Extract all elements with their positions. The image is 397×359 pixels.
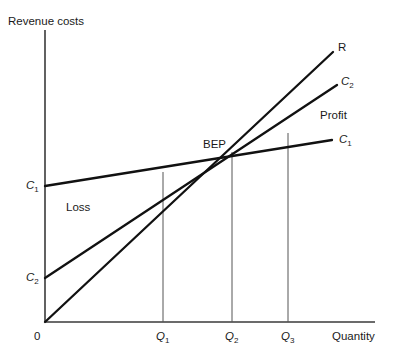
series-label-revenue: R <box>338 42 346 54</box>
x-tick-q1-sub: 1 <box>165 336 169 345</box>
x-tick-q3-sub: 3 <box>290 336 294 345</box>
series-line-c1 <box>45 140 332 186</box>
series-label-c1-right: C1 <box>339 134 352 148</box>
x-tick-q1: Q1 <box>156 331 169 345</box>
break-even-point-label: BEP <box>203 139 226 151</box>
series-label-c2-intercept: C2 <box>26 272 39 286</box>
x-tick-q2-sub: 2 <box>234 336 238 345</box>
profit-region-label: Profit <box>320 110 347 122</box>
x-tick-q1-base: Q <box>156 330 165 342</box>
loss-region-label: Loss <box>66 202 90 214</box>
series-label-c1-right-sub: 1 <box>347 139 351 148</box>
y-axis-label: Revenue costs <box>8 16 84 28</box>
series-label-c2-right-sub: 2 <box>349 81 353 90</box>
series-label-c2-right: C2 <box>341 76 354 90</box>
series-label-c2-intercept-sub: 2 <box>34 277 38 286</box>
series-label-c1-intercept: C1 <box>26 180 39 194</box>
x-tick-q2: Q2 <box>225 331 238 345</box>
x-tick-q3: Q3 <box>281 331 294 345</box>
series-line-revenue <box>45 52 333 322</box>
series-line-c2 <box>45 85 337 278</box>
x-tick-q2-base: Q <box>225 330 234 342</box>
break-even-chart: Revenue costs Quantity 0 Q1 Q2 Q3 R C2 C… <box>0 0 397 359</box>
x-tick-q3-base: Q <box>281 330 290 342</box>
chart-canvas <box>0 0 397 359</box>
series-label-c1-intercept-sub: 1 <box>34 185 38 194</box>
origin-label: 0 <box>34 331 40 343</box>
x-axis-label: Quantity <box>332 331 375 343</box>
